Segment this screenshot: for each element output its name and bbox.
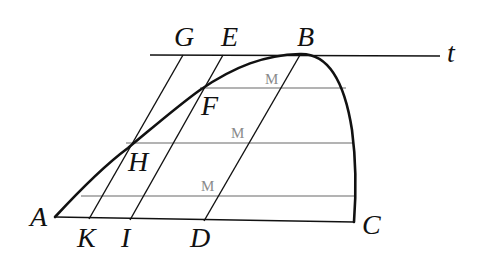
label-E: E [220, 21, 238, 52]
label-K: K [76, 222, 97, 253]
label-D: D [189, 222, 210, 253]
chords [81, 88, 356, 196]
geometry-diagram: G E B t F H A K I D C M M M [0, 0, 479, 261]
label-I: I [120, 222, 132, 253]
label-A: A [28, 201, 48, 232]
label-F: F [200, 90, 219, 121]
line-GK [89, 55, 183, 219]
label-C: C [362, 209, 381, 240]
label-B: B [297, 21, 314, 52]
label-M-bottom: M [201, 178, 214, 194]
label-M-middle: M [231, 125, 244, 141]
label-G: G [174, 21, 194, 52]
label-H: H [127, 146, 150, 177]
label-M-top: M [265, 71, 278, 87]
label-t: t [447, 37, 456, 68]
